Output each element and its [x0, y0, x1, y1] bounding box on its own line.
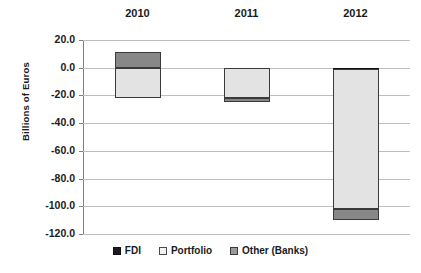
- gridline: [83, 234, 410, 235]
- legend-label: Portfolio: [171, 245, 212, 256]
- plot-area: 201020112012: [83, 40, 410, 234]
- legend-item-portfolio[interactable]: Portfolio: [159, 245, 212, 256]
- y-axis-tick-label: -100.0: [0, 199, 75, 211]
- y-axis-tick-label: -60.0: [0, 144, 75, 156]
- y-axis-tick-label: 20.0: [0, 33, 75, 45]
- bar-segment-2011-portfolio[interactable]: [224, 68, 270, 98]
- y-axis-line: [83, 40, 84, 234]
- stacked-bar-chart: Billions of Euros 201020112012 20.00.0-2…: [0, 0, 421, 273]
- y-axis-tick: [79, 234, 83, 235]
- bar-segment-2012-other-banks[interactable]: [333, 209, 379, 220]
- y-axis-tick-label: -120.0: [0, 227, 75, 239]
- fdi-swatch-icon: [113, 247, 121, 255]
- y-axis-tick: [79, 151, 83, 152]
- portfolio-swatch-icon: [159, 247, 167, 255]
- y-axis-tick: [79, 95, 83, 96]
- y-axis-tick-label: -40.0: [0, 116, 75, 128]
- y-axis-tick-label: -20.0: [0, 88, 75, 100]
- y-axis-tick-label: 0.0: [0, 61, 75, 73]
- bar-group-2012[interactable]: 2012: [333, 40, 379, 234]
- legend-item-fdi[interactable]: FDI: [113, 245, 141, 256]
- bar-segment-2010-other-banks[interactable]: [115, 52, 161, 67]
- y-axis-tick: [79, 40, 83, 41]
- bar-group-2011[interactable]: 2011: [224, 40, 270, 234]
- category-label-2010: 2010: [115, 7, 161, 19]
- y-axis-title: Billions of Euros: [20, 22, 31, 182]
- bar-group-2010[interactable]: 2010: [115, 40, 161, 234]
- bar-segment-2010-portfolio[interactable]: [115, 68, 161, 98]
- y-axis-tick: [79, 68, 83, 69]
- category-label-2011: 2011: [224, 7, 270, 19]
- legend-label: Other (Banks): [242, 245, 308, 256]
- bar-segment-2012-portfolio[interactable]: [333, 69, 379, 209]
- category-label-2012: 2012: [333, 7, 379, 19]
- y-axis-tick: [79, 179, 83, 180]
- legend-item-other-banks[interactable]: Other (Banks): [230, 245, 308, 256]
- y-axis-tick-label: -80.0: [0, 172, 75, 184]
- legend-label: FDI: [125, 245, 141, 256]
- y-axis-tick: [79, 206, 83, 207]
- y-axis-tick: [79, 123, 83, 124]
- chart-legend: FDIPortfolioOther (Banks): [0, 245, 421, 256]
- other-banks-swatch-icon: [230, 247, 238, 255]
- bar-segment-2011-other-banks[interactable]: [224, 98, 270, 101]
